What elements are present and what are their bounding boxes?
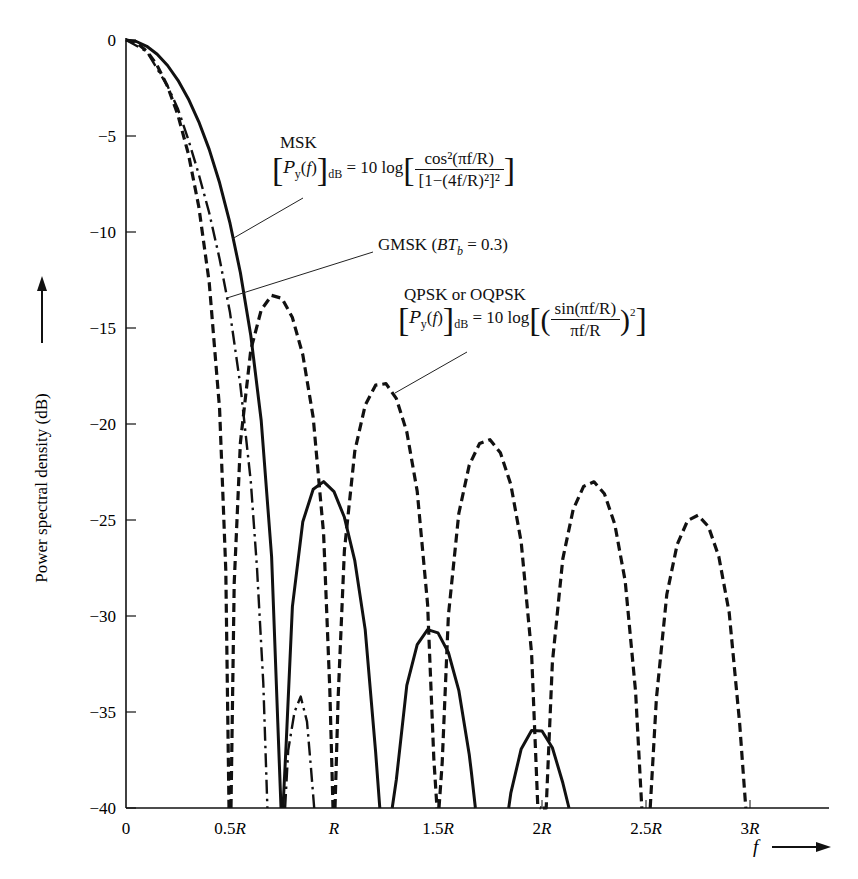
msk-fraction: cos²(πf/R)[1−(4f/R)²]²: [415, 150, 504, 189]
x-tick-label: 1.5R: [422, 819, 454, 838]
msk-leader-line: [232, 198, 303, 239]
curve-segment: [126, 40, 281, 808]
big-bracket-close: ]: [504, 151, 515, 188]
qpsk-numerator: sin(πf/R): [551, 300, 620, 320]
y-ticks: 0−5−10−15−20−25−30−35−40: [89, 31, 136, 818]
curve-segment: [126, 40, 267, 808]
y-sub: y: [421, 317, 427, 331]
big-bracket-open: [: [403, 151, 414, 188]
msk-formula: [Py(f)]dB = 10 log[cos²(πf/R)[1−(4f/R)²]…: [272, 150, 515, 189]
msk-denominator: [1−(4f/R)²]²: [415, 170, 504, 189]
bracket-close: ]: [443, 301, 454, 338]
db-sub: dB: [328, 167, 342, 181]
msk-label: MSK: [280, 134, 317, 151]
ten-log: = 10 log: [472, 308, 529, 327]
y-tick-label: −30: [89, 607, 116, 626]
gmsk-label: GMSK (BTb = 0.3): [378, 236, 508, 257]
qpsk-denominator: πf/R: [551, 320, 620, 339]
x-tick-label: R: [328, 819, 340, 838]
qpsk-formula: [Py(f)]dB = 10 log[(sin(πf/R)πf/R)2]: [398, 300, 647, 339]
curve-segment: [650, 515, 746, 808]
curve-segment: [231, 295, 333, 808]
gmsk-sub: b: [457, 244, 463, 258]
curve-segment: [285, 697, 314, 808]
msk-numerator: cos²(πf/R): [415, 150, 504, 170]
y-tick-label: −35: [89, 703, 116, 722]
big-bracket-close: ]: [636, 301, 647, 338]
x-axis-arrow-icon: [772, 842, 831, 852]
db-sub: dB: [454, 317, 468, 331]
x-tick-label: 2.5R: [630, 819, 662, 838]
paren-open: (: [541, 303, 551, 336]
y-tick-label: 0: [108, 31, 117, 50]
y-axis-label-text: Power spectral density (dB): [32, 393, 51, 582]
y-tick-label: −5: [98, 127, 116, 146]
gmsk-sub-text: b: [457, 244, 463, 258]
y-tick-label: −20: [89, 415, 116, 434]
big-bracket-open: [: [529, 301, 540, 338]
curve-segment: [126, 40, 229, 808]
qpsk-fraction: sin(πf/R)πf/R: [551, 300, 620, 339]
gmsk-leader-line: [227, 252, 373, 298]
bracket-open: [: [272, 151, 283, 188]
bracket-open: [: [398, 301, 409, 338]
x-ticks: 00.5RR1.5R2R2.5R3R: [122, 800, 760, 838]
y-axis-label: Power spectral density (dB): [32, 393, 51, 582]
x-tick-label: 0.5R: [214, 819, 246, 838]
ten-log: = 10 log: [346, 158, 403, 177]
x-tick-label: 0: [122, 819, 131, 838]
y-tick-label: −25: [89, 511, 116, 530]
y-tick-label: −15: [89, 319, 116, 338]
gmsk-name: GMSK: [378, 235, 427, 254]
psd-symbol: P: [409, 307, 420, 327]
gmsk-value: = 0.3): [467, 235, 508, 254]
y-sub: y: [295, 167, 301, 181]
curve-segment: [335, 384, 437, 808]
curve-segment: [543, 482, 642, 808]
gmsk-param: BT: [437, 235, 457, 254]
x-axis-label: f: [753, 836, 761, 857]
psd-symbol: P: [283, 157, 294, 177]
bracket-close: ]: [317, 151, 328, 188]
qpsk-leader-line: [395, 352, 467, 393]
y-tick-label: −10: [89, 223, 116, 242]
x-tick-label: 2R: [533, 819, 553, 838]
paren-close: ): [620, 303, 630, 336]
psd-chart: 0−5−10−15−20−25−30−35−40 00.5RR1.5R2R2.5…: [0, 0, 858, 879]
y-tick-label: −40: [89, 799, 116, 818]
curve-segment: [439, 440, 541, 808]
y-axis-arrow-icon: [37, 276, 47, 343]
